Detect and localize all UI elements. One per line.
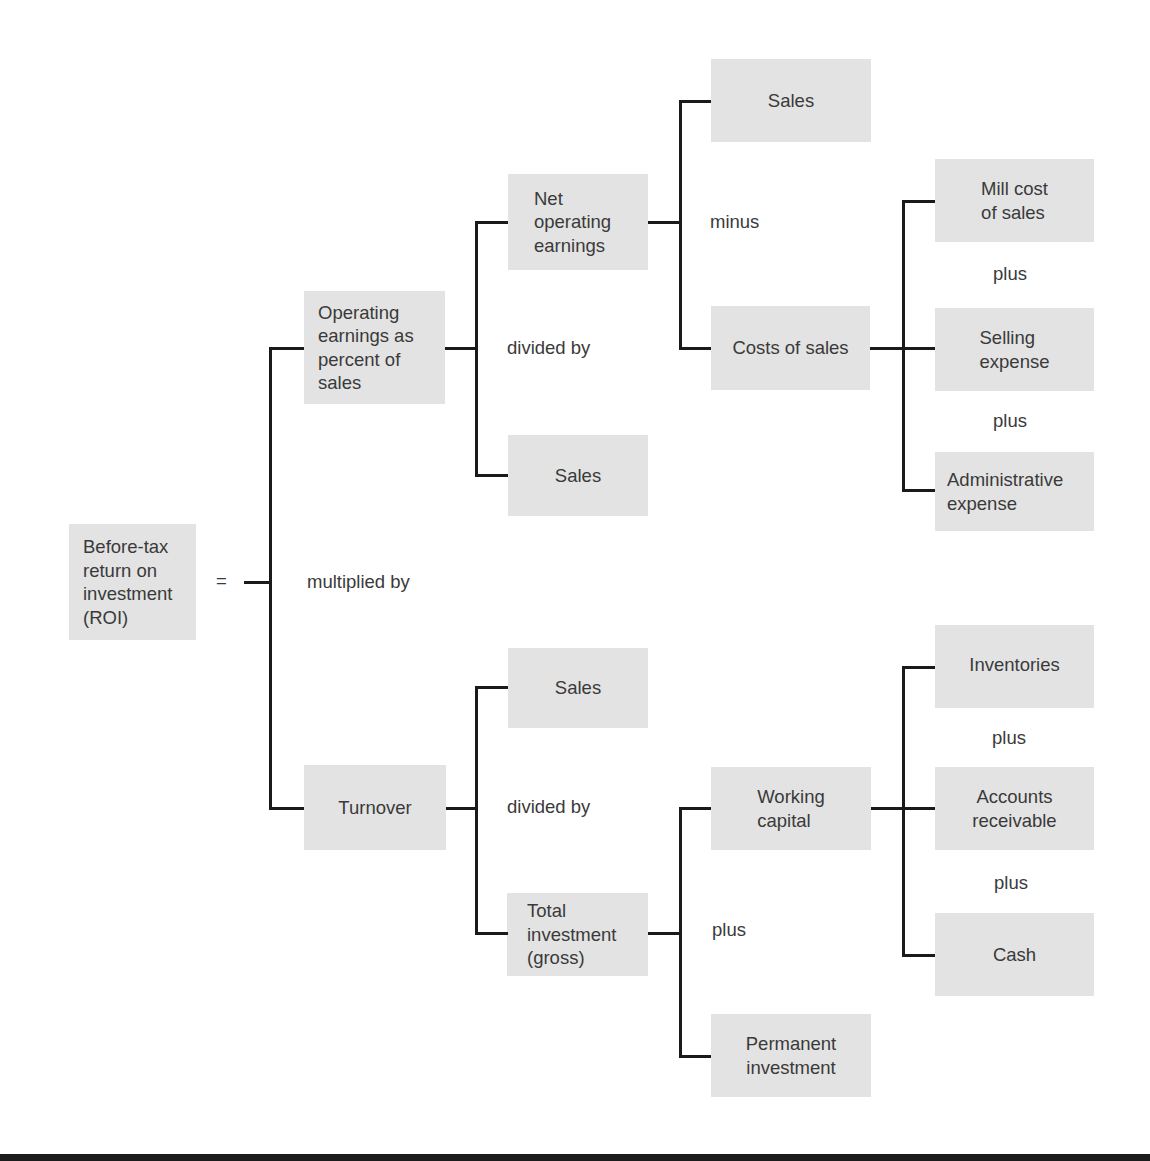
total-investment-label: Total investment (gross) (527, 899, 616, 970)
operator-divided-by-turnover: divided by (507, 796, 590, 818)
equals-sign: = (216, 570, 227, 592)
administrative-expense-node: Administrative expense (935, 452, 1094, 531)
working-capital-label: Working capital (757, 785, 825, 832)
bottom-rule (0, 1154, 1150, 1161)
connector-to-sales-top (679, 100, 711, 103)
connector-to-costs-of-sales (679, 347, 711, 350)
accounts-receivable-node: Accounts receivable (935, 767, 1094, 850)
administrative-expense-label: Administrative expense (947, 468, 1063, 515)
turnover-label: Turnover (338, 796, 411, 820)
working-capital-node: Working capital (711, 767, 871, 850)
selling-expense-node: Selling expense (935, 308, 1094, 391)
accounts-receivable-label: Accounts receivable (972, 785, 1056, 832)
operator-plus-total-investment: plus (712, 919, 746, 941)
operator-plus-cos-1: plus (993, 263, 1027, 285)
costs-of-sales-label: Costs of sales (732, 336, 848, 360)
connector-oe-stub (445, 347, 477, 350)
permanent-investment-node: Permanent investment (711, 1014, 871, 1097)
selling-expense-label: Selling expense (980, 326, 1050, 373)
connector-to-operating-earnings (269, 347, 304, 350)
operator-multiplied-by: multiplied by (307, 571, 410, 593)
connector-to-net-operating-earnings (475, 221, 508, 224)
net-operating-earnings-node: Net operating earnings (508, 174, 648, 270)
connector-to-cash (902, 954, 935, 957)
connector-turnover-vertical (475, 686, 478, 935)
connector-to-total-investment (475, 932, 508, 935)
inventories-label: Inventories (969, 653, 1060, 677)
operating-earnings-label: Operating earnings as percent of sales (318, 301, 414, 395)
cash-node: Cash (935, 913, 1094, 996)
connector-wc-vertical (902, 666, 905, 956)
operator-plus-cos-2: plus (993, 410, 1027, 432)
operator-plus-wc-1: plus (992, 727, 1026, 749)
sales-node-turnover: Sales (508, 648, 648, 728)
mill-cost-label: Mill cost of sales (981, 177, 1048, 224)
connector-root-vertical (269, 347, 272, 810)
connector-turnover-stub (446, 807, 477, 810)
connector-to-inventories (902, 666, 935, 669)
total-investment-node: Total investment (gross) (507, 893, 648, 976)
connector-to-mill-cost (902, 200, 935, 203)
connector-root-stub (244, 581, 272, 584)
connector-to-permanent-investment (679, 1055, 711, 1058)
cash-label: Cash (993, 943, 1036, 967)
connector-to-working-capital (679, 807, 711, 810)
operator-plus-wc-2: plus (994, 872, 1028, 894)
sales-oe-label: Sales (555, 464, 601, 488)
inventories-node: Inventories (935, 625, 1094, 708)
turnover-node: Turnover (304, 765, 446, 850)
operator-divided-by-oe: divided by (507, 337, 590, 359)
operator-minus: minus (710, 211, 759, 233)
costs-of-sales-node: Costs of sales (711, 306, 870, 390)
connector-ti-stub (648, 932, 681, 935)
connector-oe-vertical (475, 221, 478, 477)
connector-to-turnover (269, 807, 304, 810)
connector-noe-vertical (679, 100, 682, 350)
connector-noe-stub (648, 221, 681, 224)
connector-to-sales-oe (475, 474, 508, 477)
sales-top-label: Sales (768, 89, 814, 113)
connector-to-accounts-receivable (902, 807, 935, 810)
connector-wc-stub (871, 807, 904, 810)
connector-to-administrative-expense (902, 489, 935, 492)
net-operating-earnings-label: Net operating earnings (534, 187, 611, 258)
connector-to-sales-turnover (475, 686, 508, 689)
sales-node-oe: Sales (508, 435, 648, 516)
connector-ti-vertical (679, 807, 682, 1058)
roi-node-label: Before-tax return on investment (ROI) (83, 535, 172, 629)
connector-cos-vertical (902, 200, 905, 492)
sales-turnover-label: Sales (555, 676, 601, 700)
operating-earnings-node: Operating earnings as percent of sales (304, 291, 445, 404)
roi-node: Before-tax return on investment (ROI) (69, 524, 196, 640)
permanent-investment-label: Permanent investment (746, 1032, 837, 1079)
sales-node-top: Sales (711, 59, 871, 142)
connector-cos-stub (870, 347, 903, 350)
mill-cost-node: Mill cost of sales (935, 159, 1094, 242)
connector-to-selling-expense (902, 347, 935, 350)
